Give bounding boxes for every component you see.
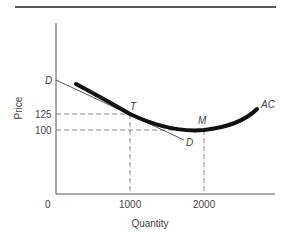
x-axis-title: Quantity bbox=[131, 218, 168, 229]
x-tick-2000: 2000 bbox=[193, 199, 216, 210]
y-axis-title: Price bbox=[13, 96, 24, 119]
label-d-top: D bbox=[45, 75, 52, 86]
x-tick-0: 0 bbox=[45, 199, 51, 210]
y-tick-125: 125 bbox=[35, 109, 52, 120]
label-t: T bbox=[130, 101, 137, 112]
label-d-bottom: D bbox=[186, 137, 193, 148]
label-ac: AC bbox=[260, 99, 276, 110]
label-m: M bbox=[198, 115, 207, 126]
reference-lines bbox=[56, 114, 204, 194]
x-tick-1000: 1000 bbox=[119, 199, 142, 210]
chart: D T M AC D 125 100 0 1000 2000 Quantity … bbox=[0, 0, 286, 239]
ac-curve bbox=[76, 84, 257, 130]
y-tick-100: 100 bbox=[35, 125, 52, 136]
